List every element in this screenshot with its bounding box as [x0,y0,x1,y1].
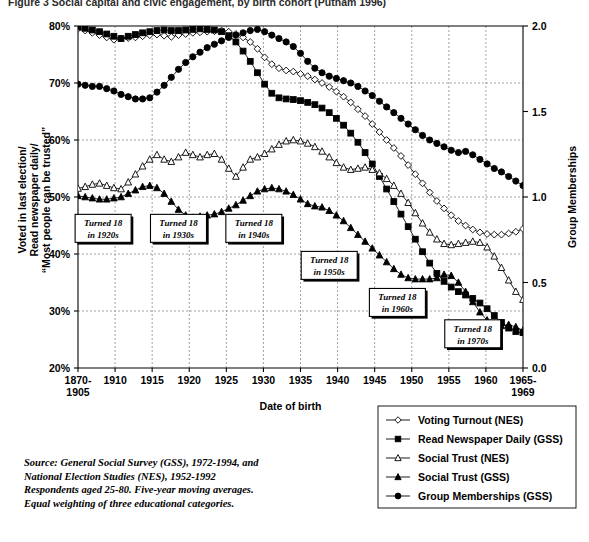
data-point-filled-circle [326,73,332,79]
data-point-open-triangle [261,150,268,156]
data-point-filled-square [89,27,95,33]
data-point-filled-circle [190,54,196,60]
data-point-open-diamond [491,231,498,238]
data-point-filled-square [211,27,217,33]
x-axis-title: Date of birth [260,400,322,412]
xtick-label: 1905 [66,386,90,398]
xtick-label: 1915 [140,374,164,386]
data-point-filled-square [441,278,447,284]
data-point-open-triangle [513,288,520,294]
data-point-filled-circle [333,75,339,81]
ytick-label-left: 60% [49,134,71,146]
data-point-open-triangle [362,164,369,170]
data-point-filled-square [183,27,189,33]
data-point-open-diamond [469,226,476,233]
data-point-filled-circle [154,89,160,95]
data-point-open-diamond [477,229,484,236]
data-point-filled-circle [470,152,476,158]
data-point-open-diamond [462,222,469,229]
annotation-label: Turned 18 [84,218,123,228]
annotation-box: Turned 18in 1960s [369,288,427,318]
legend-label: Social Trust (GSS) [418,471,510,483]
data-point-filled-circle [376,98,382,104]
data-point-filled-square [97,29,103,35]
data-point-filled-circle [462,148,468,154]
data-point-filled-square [82,25,88,31]
source-note-line: Source: General Social Survey (GSS), 197… [24,457,259,469]
ytick-label-right: 1.0 [532,191,547,203]
data-point-filled-square [262,81,268,87]
data-point-filled-square [412,236,418,242]
data-point-filled-circle [240,30,246,36]
ytick-label-right: 0.5 [532,277,547,289]
xtick-label: 1910 [103,374,127,386]
data-point-open-triangle [333,159,340,165]
data-point-filled-circle [104,86,110,92]
data-point-open-diamond [311,76,318,83]
data-point-filled-circle [96,83,102,89]
legend-label: Read Newspaper Daily (GSS) [418,433,563,445]
data-point-filled-square [75,24,81,30]
source-note-line: Respondents aged 25-80. Five-year moving… [23,484,254,495]
data-point-filled-square [240,48,246,54]
xtick-label: 1960 [474,374,498,386]
data-point-filled-triangle [405,274,412,280]
data-point-open-diamond [276,65,283,72]
data-point-filled-circle [269,32,275,38]
data-point-open-triangle [505,277,512,283]
annotation-box: Turned 18in 1920s [75,214,133,244]
data-point-filled-square [290,97,296,103]
source-note-line: Equal weighting of three educational cat… [23,498,234,509]
data-point-filled-triangle [290,191,297,197]
data-point-open-triangle [218,156,225,162]
data-point-filled-circle [398,115,404,121]
data-point-filled-circle [520,183,526,189]
data-point-filled-circle [125,94,131,100]
data-point-filled-circle [183,59,189,65]
xtick-label: 1950 [400,374,424,386]
data-point-open-triangle [383,175,390,181]
chart-svg: 20%30%40%50%60%70%80%0.00.51.01.52.01870… [0,0,589,542]
data-point-filled-circle [168,74,174,80]
data-point-filled-square [355,139,361,145]
annotation-box: Turned 18in 1940s [226,214,284,244]
annotation-label: Turned 18 [378,292,417,302]
data-point-filled-square [405,224,411,230]
data-point-filled-circle [247,27,253,33]
data-point-open-diamond [326,84,333,91]
data-point-filled-square [319,105,325,111]
annotation-label: in 1920s [87,230,119,240]
data-point-open-triangle [484,244,491,250]
data-point-open-triangle [469,238,476,244]
data-point-filled-circle [391,110,397,116]
annotation-label: Turned 18 [454,324,493,334]
data-point-filled-circle [111,88,117,94]
data-point-filled-square [176,28,182,34]
data-point-filled-square [125,33,131,39]
ytick-label-right: 0.0 [532,362,547,374]
data-point-filled-square [255,70,261,76]
ytick-label-left: 50% [49,191,71,203]
data-point-filled-circle [262,29,268,35]
data-point-filled-circle [498,169,504,175]
data-point-filled-circle [75,81,81,87]
data-point-filled-square [427,260,433,266]
xtick-label: 1935 [289,374,313,386]
data-point-filled-circle [491,165,497,171]
data-point-filled-circle [276,35,282,41]
xtick-label: 1940 [326,374,350,386]
data-point-filled-square [161,27,167,33]
data-point-filled-circle [226,34,232,40]
data-point-filled-square [362,150,368,156]
data-point-filled-triangle [268,184,275,190]
data-point-filled-square [484,306,490,312]
data-point-open-triangle [96,180,103,186]
data-point-filled-circle [506,173,512,179]
data-point-filled-square [384,186,390,192]
xtick-label: 1920 [178,374,202,386]
data-point-filled-square [491,313,497,319]
data-point-filled-circle [384,104,390,110]
data-point-filled-triangle [326,207,333,213]
data-point-filled-circle [513,178,519,184]
data-point-filled-circle [412,127,418,133]
